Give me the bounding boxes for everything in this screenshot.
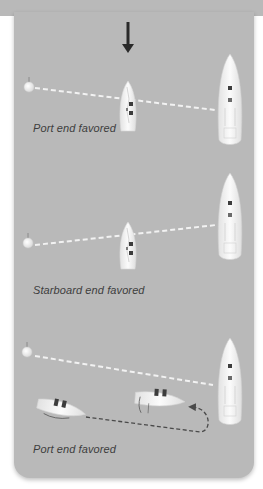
pin-buoy-icon (22, 342, 32, 357)
caption-starboard-end-favored: Starboard end favored (33, 284, 145, 296)
committee-boat-icon (218, 54, 242, 145)
sailing-path (86, 407, 208, 432)
sailboat-heeled-icon (35, 395, 87, 424)
pin-buoy-icon (24, 77, 34, 92)
sailboat-icon (120, 81, 136, 131)
panel-3 (22, 338, 242, 432)
pin-buoy-icon (23, 233, 33, 248)
sailboat-heeled-icon (134, 387, 186, 415)
committee-boat-icon (218, 173, 242, 260)
sailboat-icon (120, 222, 136, 269)
wind-direction-arrow-icon (122, 22, 134, 53)
start-line (35, 356, 213, 385)
committee-boat-icon (218, 338, 242, 425)
caption-port-end-favored: Port end favored (33, 122, 116, 134)
diagram-canvas (0, 0, 263, 489)
panel-2 (23, 173, 242, 269)
caption-port-end-favored-2: Port end favored (33, 443, 116, 455)
